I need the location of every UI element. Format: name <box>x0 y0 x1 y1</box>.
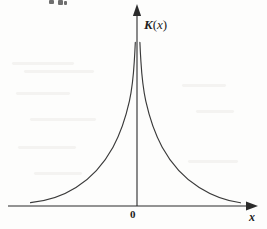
y-axis-label-symbol: K <box>144 17 153 32</box>
origin-label: 0 <box>130 209 136 220</box>
plot-canvas <box>0 0 267 229</box>
y-axis-arrowhead <box>133 4 141 16</box>
y-axis-label-close-paren: ) <box>163 17 167 32</box>
kernel-curve-right-branch <box>140 42 241 202</box>
x-axis-label: x <box>249 211 255 223</box>
cropped-glyph-fragment <box>49 0 67 5</box>
kernel-curve-left-branch <box>31 42 136 202</box>
kernel-function-figure: K(x) 0 x <box>0 0 267 229</box>
y-axis-label: K(x) <box>144 18 167 31</box>
